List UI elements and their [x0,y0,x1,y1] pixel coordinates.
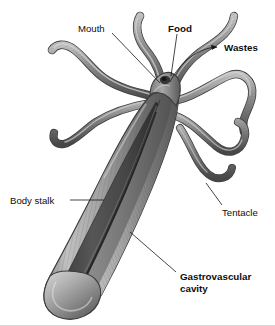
label-food: Food [168,23,192,34]
hydra-diagram-figure: Mouth Food Wastes Body stalk Tentacle Ga… [0,0,275,326]
label-body-stalk: Body stalk [10,195,54,206]
label-tentacle: Tentacle [222,207,258,218]
diagram-canvas: Mouth Food Wastes Body stalk Tentacle Ga… [0,0,275,326]
label-wastes: Wastes [224,42,258,53]
label-mouth: Mouth [78,23,105,34]
mouth-opening-inner [161,77,166,81]
label-gastrovascular-cavity-line1: Gastrovascular [180,271,252,282]
label-gastrovascular-cavity-line2: cavity [180,283,208,294]
